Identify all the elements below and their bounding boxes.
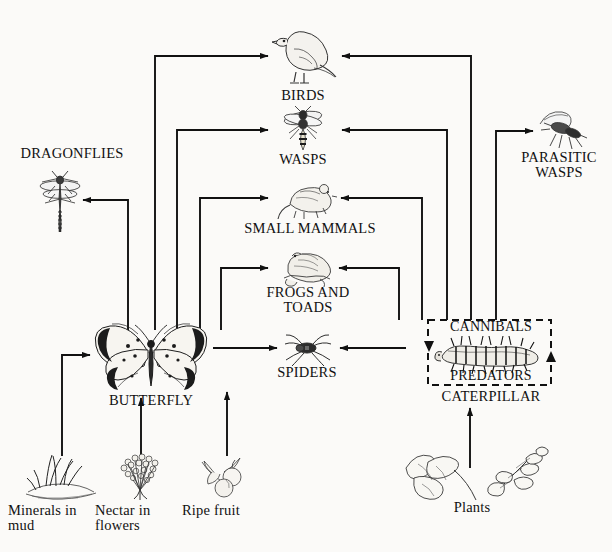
wasps-label: WASPS <box>258 152 348 167</box>
caterpillar-label: CATERPILLAR <box>420 389 562 404</box>
small-mammals-label: SMALL MAMMALS <box>236 221 384 236</box>
dragonfly-icon <box>22 166 98 238</box>
food-web-diagram: DRAGONFLIES BIRDS <box>0 0 612 552</box>
flowers-icon <box>108 450 178 500</box>
parasitic-wasps-label: PARASITIC WASPS <box>505 150 612 180</box>
spiders-label: SPIDERS <box>262 365 352 380</box>
mud-icon <box>22 452 100 500</box>
minerals-in-mud-label: Minerals in mud <box>8 503 108 533</box>
plants-label: Plants <box>432 500 512 515</box>
edge-caterpillar-birds <box>342 56 471 320</box>
birds-label: BIRDS <box>253 88 353 103</box>
cannibal-up-marker <box>546 351 556 362</box>
parasitic-wasp-icon <box>528 108 590 154</box>
nectar-in-flowers-label: Nectar in flowers <box>95 503 191 533</box>
butterfly-icon <box>88 318 214 400</box>
bird-icon <box>268 27 338 85</box>
butterfly-label: BUTTERFLY <box>91 393 211 408</box>
dragonflies-label: DRAGONFLIES <box>6 146 138 161</box>
wasp-icon <box>270 106 336 154</box>
edge-minerals-butterfly <box>62 355 90 456</box>
predator-down-marker <box>424 341 434 352</box>
spider-icon <box>280 328 334 368</box>
ripe-fruit-label: Ripe fruit <box>182 503 274 518</box>
cannibals-label: CANNIBALS <box>432 320 550 334</box>
mouse-icon <box>272 178 340 222</box>
fruit-icon <box>196 452 262 500</box>
frogs-and-toads-label: FROGS AND TOADS <box>243 285 373 315</box>
predators-label: PREDATORS <box>432 369 550 383</box>
